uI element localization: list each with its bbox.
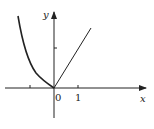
x-axis-label: x [140,93,146,104]
right-branch-line [54,28,91,88]
x-tick-label-1: 1 [75,92,81,103]
y-axis-label: y [42,9,49,20]
function-graph: y x 0 1 [0,0,154,129]
origin-label: 0 [55,92,61,103]
left-branch-curve [18,16,54,88]
